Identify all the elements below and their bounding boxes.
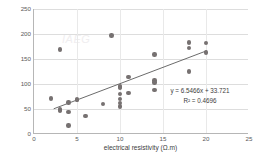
data-point: [126, 91, 130, 95]
plot-area: 050100150200250 0510152025: [33, 9, 248, 134]
x-tick-label: 0: [32, 136, 35, 142]
data-point: [83, 114, 87, 118]
data-point: [118, 85, 122, 89]
data-point: [152, 80, 156, 84]
x-axis-title: electrical resistivity (Ω.m): [33, 143, 248, 153]
data-point: [152, 52, 156, 56]
y-tick-label: 0: [28, 131, 31, 137]
y-tick-label: 200: [21, 31, 31, 37]
data-point: [126, 75, 130, 79]
x-tick-label: 25: [246, 136, 253, 142]
data-point: [187, 69, 191, 73]
x-tick-label: 10: [117, 136, 124, 142]
data-point: [204, 50, 208, 54]
data-point: [118, 104, 122, 108]
data-point: [66, 123, 70, 127]
data-point: [187, 40, 191, 44]
data-point: [58, 107, 62, 111]
x-tick-label: 5: [75, 136, 78, 142]
y-tick-label: 100: [21, 81, 31, 87]
trendline-annotation: y = 6.5466x + 33.721 R² = 0.4696: [152, 86, 248, 106]
trendline-equation: y = 6.5466x + 33.721: [152, 86, 248, 96]
trendline: [34, 9, 248, 133]
x-tick-label: 15: [160, 136, 167, 142]
trendline-r2: R² = 0.4696: [152, 96, 248, 106]
data-point: [66, 100, 70, 104]
y-tick-label: 150: [21, 56, 31, 62]
scatter-chart: IAEG SPT-N (from surface wave) electrica…: [0, 0, 263, 155]
data-point: [66, 110, 70, 114]
data-point: [109, 33, 113, 37]
y-tick-label: 50: [24, 106, 31, 112]
x-tick-label: 20: [203, 136, 210, 142]
y-tick-label: 250: [21, 6, 31, 12]
data-point: [58, 47, 62, 51]
